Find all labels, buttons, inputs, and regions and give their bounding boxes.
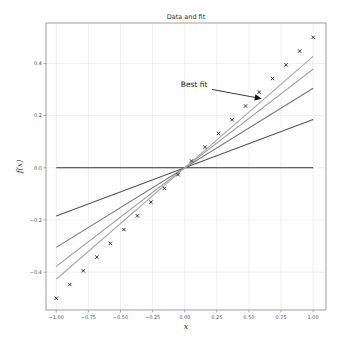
x-tick-label: −0.75 (81, 314, 96, 320)
y-tick-label: −0.4 (30, 269, 42, 275)
data-point (68, 283, 71, 286)
data-point (257, 91, 260, 94)
data-point (95, 255, 98, 258)
x-tick-label: −0.50 (113, 314, 128, 320)
data-point (203, 146, 206, 149)
data-point (271, 77, 274, 80)
data-point (136, 214, 139, 217)
x-tick-label: −1.00 (49, 314, 64, 320)
data-point (298, 49, 301, 52)
x-tick-label: 0.50 (243, 314, 254, 320)
data-point (217, 132, 220, 135)
data-point (244, 104, 247, 107)
y-axis-ticks: −0.4−0.20.00.20.4 (30, 60, 46, 275)
y-tick-label: −0.2 (30, 217, 42, 223)
x-tick-label: −0.25 (145, 314, 160, 320)
annotation-text: Best fit (181, 80, 208, 89)
chart: −1.00−0.75−0.50−0.250.000.250.500.751.00… (0, 0, 343, 342)
annotation-arrow-shaft (212, 89, 255, 97)
data-point (230, 118, 233, 121)
x-tick-label: 0.00 (179, 314, 190, 320)
data-point (163, 187, 166, 190)
x-tick-label: 0.75 (275, 314, 286, 320)
y-tick-label: 0.4 (34, 60, 42, 66)
y-axis-label: f(x) (15, 160, 24, 175)
chart-title: Data and fit (167, 13, 206, 21)
y-tick-label: 0.2 (34, 112, 42, 118)
x-axis-ticks: −1.00−0.75−0.50−0.250.000.250.500.751.00 (49, 310, 319, 320)
annotation-arrow-head (254, 94, 261, 100)
x-tick-label: 0.25 (211, 314, 222, 320)
y-tick-label: 0.0 (34, 165, 42, 171)
data-point (122, 228, 125, 231)
data-point (109, 242, 112, 245)
x-axis-label: x (184, 322, 189, 331)
data-point (149, 200, 152, 203)
x-tick-label: 1.00 (308, 314, 319, 320)
annotations: Best fit (181, 80, 262, 101)
